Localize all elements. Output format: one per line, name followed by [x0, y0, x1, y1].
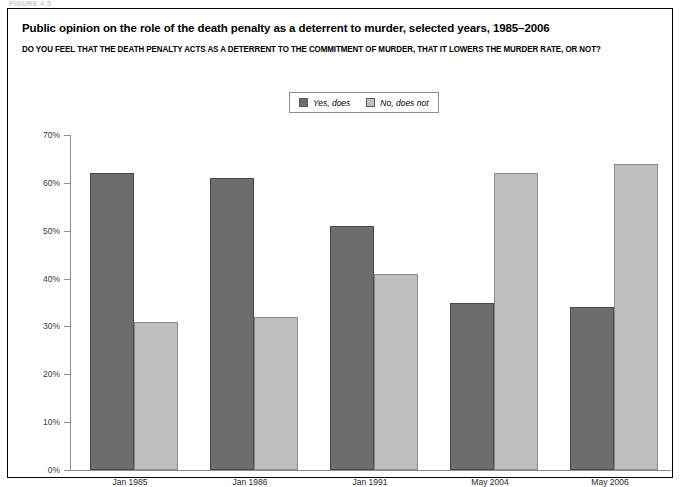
x-axis-tick-label: May 2004 [430, 477, 550, 487]
figure-frame: Public opinion on the role of the death … [7, 8, 673, 478]
bar-yes-does[interactable] [450, 303, 494, 471]
plot-area [70, 135, 670, 470]
bar-group [550, 135, 670, 470]
bar-yes-does[interactable] [210, 178, 254, 470]
bar-group [430, 135, 550, 470]
y-axis-tick-label: 10% [14, 417, 60, 427]
x-axis-tick-label: May 2006 [550, 477, 670, 487]
y-axis-tick [64, 183, 70, 184]
y-axis-tick [64, 231, 70, 232]
bar-no-does-not[interactable] [494, 173, 538, 470]
bar-yes-does[interactable] [570, 307, 614, 470]
y-axis-tick [64, 374, 70, 375]
legend-label-no: No, does not [380, 98, 428, 108]
bar-no-does-not[interactable] [374, 274, 418, 470]
y-axis-tick-label: 70% [14, 130, 60, 140]
y-axis-tick-label: 40% [14, 274, 60, 284]
bar-no-does-not[interactable] [134, 322, 178, 470]
bar-group [190, 135, 310, 470]
bar-no-does-not[interactable] [254, 317, 298, 470]
bar-yes-does[interactable] [90, 173, 134, 470]
y-axis-tick-label: 30% [14, 321, 60, 331]
x-axis-line [70, 470, 671, 471]
bar-no-does-not[interactable] [614, 164, 658, 470]
figure-number-label: FIGURE 4.5 [9, 0, 51, 7]
y-axis-tick [64, 470, 70, 471]
y-axis-tick-label: 60% [14, 178, 60, 188]
y-axis-tick-label: 0% [14, 465, 60, 475]
x-axis-tick-label: Jan 1986 [190, 477, 310, 487]
legend-swatch-no-icon [366, 98, 375, 107]
y-axis-tick-label: 50% [14, 226, 60, 236]
legend-swatch-yes-icon [299, 98, 308, 107]
chart-legend: Yes, does No, does not [289, 92, 439, 113]
x-axis-tick-label: Jan 1985 [70, 477, 190, 487]
y-axis-tick [64, 135, 70, 136]
bar-yes-does[interactable] [330, 226, 374, 470]
y-axis-tick [64, 326, 70, 327]
y-axis-tick [64, 279, 70, 280]
y-axis-tick-label: 20% [14, 369, 60, 379]
legend-entry-yes[interactable]: Yes, does [299, 98, 350, 108]
x-axis-tick-label: Jan 1991 [310, 477, 430, 487]
bar-group [310, 135, 430, 470]
chart-title: Public opinion on the role of the death … [22, 22, 550, 34]
legend-entry-no[interactable]: No, does not [366, 98, 428, 108]
bar-group [70, 135, 190, 470]
legend-label-yes: Yes, does [313, 98, 350, 108]
chart-subtitle: DO YOU FEEL THAT THE DEATH PENALTY ACTS … [22, 45, 601, 54]
y-axis-tick [64, 422, 70, 423]
